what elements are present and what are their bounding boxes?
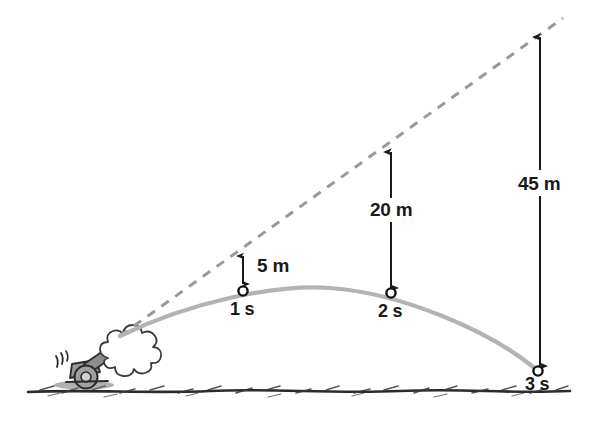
- ball-marker-2s: [386, 288, 395, 297]
- time-label-3s: 3 s: [525, 374, 549, 395]
- ball-marker-1s: [238, 286, 247, 295]
- drop-label-1s: 5 m: [257, 255, 289, 277]
- diagram-canvas: [0, 0, 595, 427]
- drop-label-2s: 20 m: [370, 199, 413, 221]
- ground-line: [28, 386, 570, 397]
- trajectory-curve: [120, 287, 538, 371]
- time-label-2s: 2 s: [378, 301, 402, 322]
- drop-label-3s: 45 m: [518, 173, 561, 195]
- time-label-1s: 1 s: [230, 299, 254, 320]
- projectile-motion-figure: 5 m 20 m 45 m 1 s 2 s 3 s: [0, 0, 595, 427]
- cannon-recoil-marks: [56, 351, 68, 367]
